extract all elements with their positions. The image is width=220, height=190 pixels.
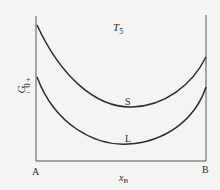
component-b-label: B: [202, 164, 209, 175]
liquid-curve: [37, 77, 206, 144]
temperature-label: T5: [113, 22, 123, 37]
temperature-subscript: 5: [119, 27, 123, 36]
y-minus-sign: −: [26, 87, 31, 98]
component-a-label: A: [32, 166, 39, 177]
gibbs-energy-diagram: [0, 0, 220, 190]
x-axis-label: xB: [119, 172, 128, 187]
curve-label-l: L: [125, 133, 131, 144]
curve-label-s: S: [125, 96, 131, 107]
solid-curve: [37, 25, 206, 107]
x-axis-subscript: B: [123, 177, 128, 185]
